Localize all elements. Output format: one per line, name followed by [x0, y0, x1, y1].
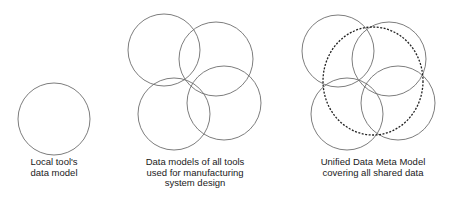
data-model-circle: [128, 14, 200, 86]
data-model-circle: [352, 22, 426, 96]
caption-line: Data models of all tools: [130, 157, 260, 168]
caption-data-models-all-tools: Data models of all tools used for manufa…: [130, 157, 260, 189]
panel-all-tools-circles: [128, 14, 261, 150]
data-model-circle: [179, 22, 253, 96]
panel-local-circles: [18, 83, 90, 155]
caption-line: Unified Data Meta Model: [308, 157, 438, 168]
data-model-circle: [187, 66, 261, 140]
caption-line: Local tool's: [4, 157, 104, 168]
caption-line: data model: [4, 168, 104, 179]
data-model-circle: [18, 83, 90, 155]
panel-unified-circles: [302, 15, 435, 150]
data-model-circle: [361, 66, 435, 140]
data-model-circle: [302, 15, 374, 87]
data-model-circle: [311, 78, 383, 150]
data-model-circle: [138, 78, 210, 150]
caption-line: covering all shared data: [308, 168, 438, 179]
caption-unified-data-meta-model: Unified Data Meta Model covering all sha…: [308, 157, 438, 178]
caption-line: system design: [130, 178, 260, 189]
caption-local-tool-data-model: Local tool's data model: [4, 157, 104, 178]
